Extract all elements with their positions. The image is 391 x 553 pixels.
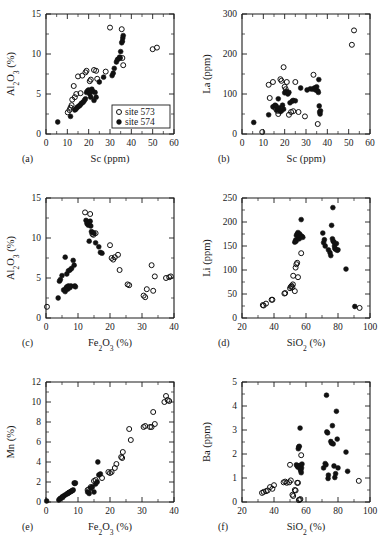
- data-point: [87, 491, 92, 496]
- data-point: [299, 453, 304, 458]
- x-tick-label: 0: [44, 322, 49, 332]
- x-tick-label: 40: [169, 506, 179, 516]
- data-point: [357, 305, 362, 310]
- data-point: [56, 296, 61, 301]
- x-tick-label: 30: [105, 138, 115, 148]
- data-point: [60, 273, 65, 278]
- x-tick-label: 60: [365, 138, 375, 148]
- panel-letter: (f): [218, 521, 228, 533]
- axis-title-text: Fe2O3 (%): [88, 337, 132, 353]
- x-tick-label: 50: [344, 138, 354, 148]
- y-tick-label: 2: [232, 449, 237, 459]
- panel-plot-c: 010203040051015Fe2O3 (%)Al2O3 (%)(c): [0, 184, 195, 368]
- data-point: [336, 247, 341, 252]
- series-site-573: [85, 394, 172, 493]
- data-point: [298, 426, 303, 431]
- axis-frame-top-right: [242, 198, 370, 318]
- axis-frame: [242, 382, 370, 502]
- y-axis-title: Mn (%): [5, 425, 17, 458]
- data-point: [270, 80, 275, 85]
- panel-plot-f: 20406080100012345SiO2 (%)Ba (ppm)(f): [196, 368, 391, 552]
- x-tick-label: 40: [269, 506, 279, 516]
- data-point: [334, 409, 339, 414]
- series-site-573: [260, 28, 357, 135]
- data-point: [320, 231, 325, 236]
- panel-plot-a: 0102030405060051015Sc (ppm)Al2O3 (%)(a)s…: [0, 0, 195, 184]
- data-point: [167, 399, 172, 404]
- y-tick-label: 250: [223, 193, 238, 203]
- x-tick-label: 30: [137, 322, 147, 332]
- data-point: [94, 95, 99, 100]
- x-tick-label: 10: [63, 138, 73, 148]
- data-point: [72, 263, 77, 268]
- data-point: [251, 120, 256, 125]
- data-point: [344, 267, 349, 272]
- data-point: [281, 65, 286, 70]
- axis-frame: [46, 382, 174, 502]
- axis-title-text: Al2O3 (%): [5, 236, 21, 280]
- data-point: [108, 25, 113, 30]
- panel-letter: (c): [22, 337, 33, 349]
- data-point: [127, 427, 132, 432]
- y-tick-label: 10: [32, 397, 42, 407]
- data-point: [121, 33, 126, 38]
- series-site-573: [44, 210, 173, 309]
- data-point: [144, 287, 149, 292]
- data-point: [100, 251, 105, 256]
- data-point: [103, 69, 108, 74]
- data-point: [73, 481, 78, 486]
- panel-c: 010203040051015Fe2O3 (%)Al2O3 (%)(c): [0, 184, 195, 368]
- y-tick-label: 5: [232, 377, 237, 387]
- x-tick-label: 50: [148, 138, 158, 148]
- data-point: [101, 75, 106, 80]
- data-point: [267, 96, 272, 101]
- data-point: [284, 80, 289, 85]
- legend-label: site 574: [125, 117, 155, 127]
- axis-title-text: SiO2 (%): [287, 337, 326, 353]
- data-point: [330, 423, 335, 428]
- data-point: [108, 243, 113, 248]
- data-point: [330, 205, 335, 210]
- panel-plot-b: 01020304050600100200300Sc (ppm)La (ppm)(…: [196, 0, 391, 184]
- panel-f: 20406080100012345SiO2 (%)Ba (ppm)(f): [196, 368, 391, 552]
- data-point: [324, 393, 329, 398]
- data-point: [316, 77, 321, 82]
- x-axis-title: Sc (ppm): [287, 153, 326, 165]
- y-tick-label: 1: [232, 473, 237, 483]
- axis-frame-top-right: [46, 382, 174, 502]
- panel-letter: (e): [22, 521, 33, 533]
- data-point: [292, 289, 297, 294]
- axis-frame-top-right: [242, 382, 370, 502]
- y-axis-title: Ba (ppm): [201, 422, 213, 462]
- x-tick-label: 20: [105, 506, 115, 516]
- data-point: [71, 258, 76, 263]
- x-tick-label: 0: [240, 138, 245, 148]
- data-point: [296, 446, 301, 451]
- data-point: [288, 462, 293, 467]
- data-point: [300, 462, 305, 467]
- series-site-573: [260, 251, 362, 311]
- data-point: [73, 284, 78, 289]
- data-point: [317, 104, 322, 109]
- data-point: [151, 288, 156, 293]
- x-tick-label: 20: [237, 322, 247, 332]
- y-tick-label: 300: [223, 9, 238, 19]
- y-tick-label: 10: [32, 233, 42, 243]
- legend-marker-filled-circle: [117, 120, 122, 125]
- data-point: [87, 239, 92, 244]
- data-point: [322, 237, 327, 242]
- axis-title-text: Al2O3 (%): [5, 52, 21, 96]
- data-point: [128, 438, 133, 443]
- panel-plot-e: 010203040024681012Fe2O3 (%)Mn (%)(e): [0, 368, 195, 552]
- data-point: [44, 304, 49, 309]
- x-tick-label: 100: [363, 322, 378, 332]
- data-point: [88, 77, 93, 82]
- data-point: [115, 57, 120, 62]
- data-point: [112, 66, 117, 71]
- data-point: [315, 122, 320, 127]
- data-point: [331, 442, 336, 447]
- x-tick-label: 0: [44, 138, 49, 148]
- data-point: [281, 107, 286, 112]
- legend-label: site 573: [125, 107, 155, 117]
- data-point: [93, 90, 98, 95]
